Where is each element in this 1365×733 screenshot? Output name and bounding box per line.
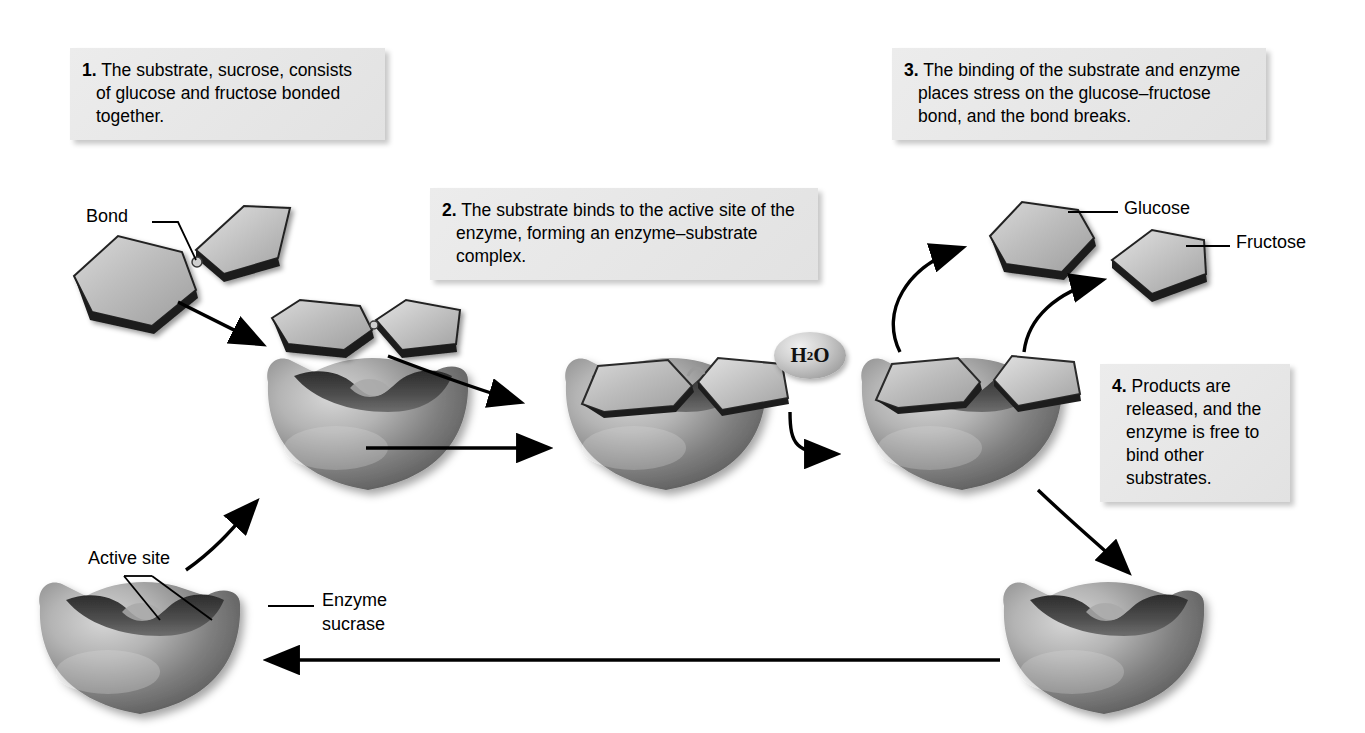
callout-step-4-text: Products are released, and the enzyme is… <box>1126 376 1261 488</box>
arrow-release-glucose <box>893 248 962 352</box>
fructose-pentagon-mid <box>376 300 460 358</box>
glucose-hexagon-free <box>74 236 198 334</box>
label-active-site: Active site <box>88 548 170 570</box>
fructose-pentagon-split <box>994 356 1081 412</box>
label-glucose: Glucose <box>1124 198 1190 220</box>
callout-step-3-text: The binding of the substrate and enzyme … <box>918 60 1240 126</box>
leader-active-site-right <box>152 576 212 620</box>
glucose-product <box>990 202 1096 280</box>
label-fructose: Fructose <box>1236 232 1306 254</box>
water-h: H <box>790 343 806 368</box>
callout-step-2-number: 2. <box>442 200 457 220</box>
arrow-midpoint-to-active-site <box>388 356 520 402</box>
figure-canvas: 1. The substrate, sucrose, consists of g… <box>0 0 1365 733</box>
callout-step-1-text: The substrate, sucrose, consists of gluc… <box>96 60 352 126</box>
callout-step-4-number: 4. <box>1112 376 1127 396</box>
leader-active-site-left <box>124 576 160 620</box>
enzyme-substrate-complex <box>565 358 766 490</box>
leader-bond <box>152 222 196 260</box>
fructose-pentagon-bound <box>698 358 789 416</box>
enzyme-bump-between-sugars <box>688 368 704 376</box>
fructose-product <box>1112 230 1207 302</box>
enzyme-products-bound <box>861 358 1062 490</box>
arrow-substrate-to-midpoint <box>178 302 262 344</box>
fructose-pentagon-free <box>196 206 290 282</box>
callout-step-3: 3. The binding of the substrate and enzy… <box>892 48 1266 140</box>
callout-step-1-number: 1. <box>82 60 97 80</box>
glucose-hexagon-split <box>876 358 982 414</box>
arrow-complex-to-split <box>790 412 836 454</box>
glucose-hexagon-bound <box>582 360 694 418</box>
callout-step-2-text: The substrate binds to the active site o… <box>456 200 795 266</box>
glucose-hexagon-mid <box>272 300 374 358</box>
water-molecule-badge: H2O <box>774 332 846 379</box>
label-bond: Bond <box>86 206 128 228</box>
enzyme-free-bottom-left <box>39 582 240 714</box>
callout-step-3-number: 3. <box>904 60 919 80</box>
enzyme-free-bottom-right <box>1003 582 1204 714</box>
label-enzyme-sucrase-line1: Enzyme <box>322 590 387 612</box>
enzyme-empty-upper-left <box>267 358 468 490</box>
callout-step-1: 1. The substrate, sucrose, consists of g… <box>70 48 385 140</box>
callout-step-4: 4. Products are released, and the enzyme… <box>1100 364 1290 502</box>
water-o: O <box>813 343 829 368</box>
arrow-free-enzyme-up <box>186 502 256 570</box>
callout-step-2: 2. The substrate binds to the active sit… <box>430 188 818 280</box>
arrow-release-fructose <box>1024 280 1102 352</box>
glycosidic-bond-node <box>192 257 202 267</box>
label-enzyme-sucrase-line2: sucrase <box>322 614 385 636</box>
glycosidic-bond-node-mid <box>370 321 378 329</box>
